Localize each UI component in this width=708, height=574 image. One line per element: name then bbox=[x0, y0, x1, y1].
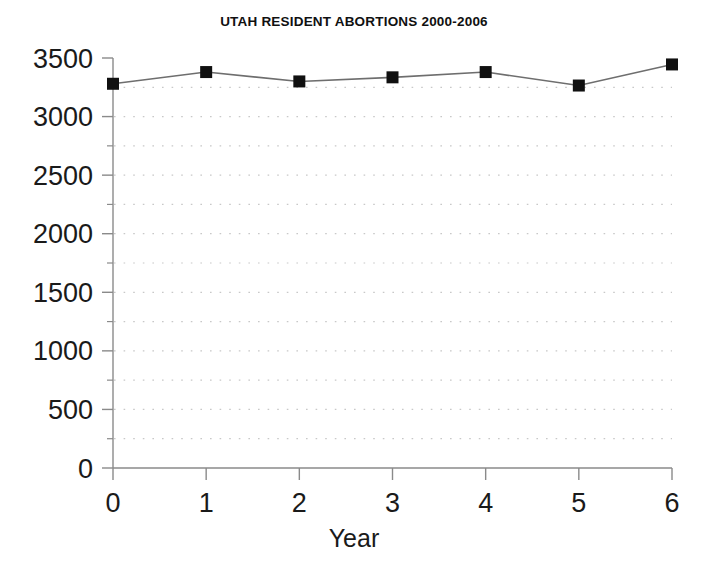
x-axis-tick-label: 5 bbox=[571, 488, 586, 518]
data-point-marker bbox=[387, 71, 399, 83]
x-axis-tick-label: 1 bbox=[199, 488, 214, 518]
data-point-marker bbox=[573, 80, 585, 92]
data-point-marker bbox=[107, 78, 119, 90]
line-chart-plot: 0500100015002000250030003500 0123456 bbox=[0, 0, 708, 574]
series-markers bbox=[107, 58, 678, 91]
data-point-marker bbox=[200, 66, 212, 78]
x-axis-tick-label: 4 bbox=[478, 488, 493, 518]
y-axis: 0500100015002000250030003500 bbox=[33, 44, 113, 484]
data-series-group bbox=[107, 58, 678, 91]
y-axis-tick-label: 2000 bbox=[33, 219, 93, 249]
y-axis-tick-label: 3000 bbox=[33, 102, 93, 132]
x-axis-tick-label: 6 bbox=[664, 488, 679, 518]
data-point-marker bbox=[666, 58, 678, 70]
x-axis-title: Year bbox=[0, 524, 708, 553]
y-axis-tick-label: 2500 bbox=[33, 161, 93, 191]
x-axis-tick-label: 3 bbox=[385, 488, 400, 518]
y-axis-tick-label: 500 bbox=[48, 395, 93, 425]
y-axis-tick-label: 0 bbox=[78, 454, 93, 484]
data-point-marker bbox=[480, 66, 492, 78]
chart-container: UTAH RESIDENT ABORTIONS 2000-2006 050010… bbox=[0, 0, 708, 574]
x-axis: 0123456 bbox=[105, 468, 679, 518]
x-axis-tick-label: 2 bbox=[292, 488, 307, 518]
x-axis-ticks bbox=[113, 468, 672, 480]
x-axis-tick-label: 0 bbox=[105, 488, 120, 518]
data-point-marker bbox=[293, 75, 305, 87]
y-axis-tick-label: 3500 bbox=[33, 44, 93, 74]
gridlines-group bbox=[114, 87, 672, 438]
y-axis-tick-label: 1000 bbox=[33, 336, 93, 366]
y-axis-tick-label: 1500 bbox=[33, 278, 93, 308]
x-axis-tick-labels: 0123456 bbox=[105, 488, 679, 518]
y-axis-tick-labels: 0500100015002000250030003500 bbox=[33, 44, 93, 484]
y-axis-ticks bbox=[102, 58, 113, 468]
